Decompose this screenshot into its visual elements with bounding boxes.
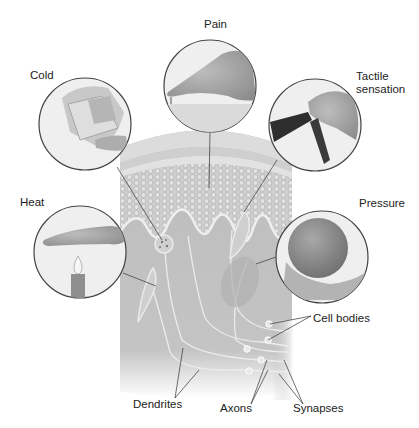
label-dendrites: Dendrites xyxy=(133,398,182,411)
sensory-receptor-diagram xyxy=(0,0,419,428)
skin-cross-section xyxy=(120,130,294,400)
heat-stimulus-circle xyxy=(34,206,126,304)
label-tactile-sensation: Tactile sensation xyxy=(356,70,419,96)
label-synapses: Synapses xyxy=(293,402,344,415)
pain-stimulus-circle xyxy=(160,40,260,134)
label-heat: Heat xyxy=(20,196,44,209)
label-pain: Pain xyxy=(204,18,227,31)
tactile-stimulus-circle xyxy=(269,79,361,171)
label-cold: Cold xyxy=(30,69,54,82)
label-axons: Axons xyxy=(220,402,252,415)
cold-stimulus-circle xyxy=(39,78,131,170)
pressure-stimulus-circle xyxy=(276,211,370,303)
label-pressure: Pressure xyxy=(359,197,405,210)
label-cell-bodies: Cell bodies xyxy=(313,312,370,325)
free-nerve-ending-cold xyxy=(155,235,173,253)
